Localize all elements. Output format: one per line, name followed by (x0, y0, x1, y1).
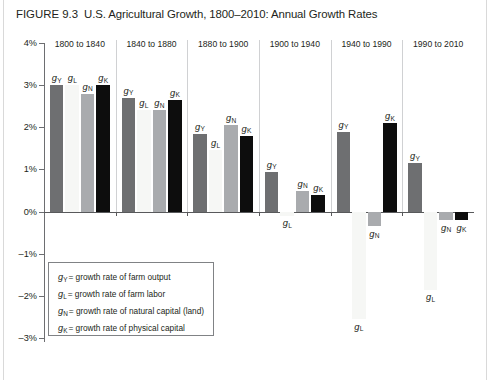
group-separator (116, 40, 117, 214)
bar-label-gN-group-4: gN (298, 179, 308, 189)
bar-gN-group-1 (81, 94, 95, 212)
figure-title: FIGURE 9.3U.S. Agricultural Growth, 1800… (16, 8, 476, 20)
bar-label-gY-group-4: gY (267, 160, 277, 170)
legend-item-n: gN= growth rate of natural capital (land… (58, 303, 205, 320)
bar-label-gK-group-5: gK (385, 111, 395, 121)
bar-gL-group-5 (352, 212, 366, 319)
bar-gK-group-3 (240, 136, 254, 212)
figure-container: FIGURE 9.3U.S. Agricultural Growth, 1800… (0, 0, 490, 380)
legend-text-l: = growth rate of farm labor (68, 289, 166, 299)
y-axis-tick-label: 4% (24, 38, 37, 48)
y-axis-tick-mark (39, 212, 44, 213)
figure-number: FIGURE 9.3 (16, 8, 78, 20)
group-separator (187, 40, 188, 214)
y-axis-tick-label: –3% (19, 333, 37, 343)
bar-gY-group-6 (408, 163, 422, 211)
bar-label-gK-group-3: gK (242, 124, 252, 134)
group-header-1: 1800 to 1840 (55, 39, 105, 49)
bar-gY-group-3 (193, 134, 207, 212)
bar-label-gN-group-2: gN (154, 98, 164, 108)
zero-line-tick (402, 212, 403, 216)
bar-gN-group-4 (296, 191, 310, 212)
legend-text-k: = growth rate of physical capital (68, 323, 184, 333)
group-separator (402, 40, 403, 214)
bar-label-gN-group-6: gN (441, 223, 451, 233)
bar-label-gK-group-6: gK (457, 223, 467, 233)
bar-label-gY-group-2: gY (123, 86, 133, 96)
y-axis-tick-mark (39, 169, 44, 170)
y-axis-line (44, 43, 45, 342)
zero-line-tick (259, 212, 260, 216)
legend-item-l: gL= growth rate of farm labor (58, 286, 205, 303)
group-header-2: 1840 to 1880 (126, 39, 176, 49)
zero-line-tick (331, 212, 332, 216)
bar-gL-group-2 (137, 110, 151, 211)
bar-label-gN-group-5: gN (369, 229, 379, 239)
y-axis-tick-label: 2% (24, 122, 37, 132)
zero-line-tick (116, 212, 117, 216)
group-header-4: 1900 to 1940 (270, 39, 320, 49)
legend-symbol-l: gL (58, 289, 67, 299)
legend-text-n: = growth rate of natural capital (land) (69, 306, 204, 316)
zero-line-tick (187, 212, 188, 216)
y-axis-tick-label: 0% (24, 207, 37, 217)
legend-symbol-n: gN (58, 306, 68, 316)
bar-label-gY-group-1: gY (52, 73, 62, 83)
bar-gL-group-6 (424, 212, 438, 290)
legend-symbol-k: gK (58, 323, 67, 333)
y-axis-tick-label: –1% (19, 249, 37, 259)
y-axis-tick-mark (39, 127, 44, 128)
bar-gK-group-5 (383, 123, 397, 212)
y-axis-tick-mark (39, 296, 44, 297)
bar-gY-group-4 (265, 172, 279, 212)
legend-symbol-y: gY (58, 272, 67, 282)
y-axis-tick-mark (39, 43, 44, 44)
bar-label-gL-group-5: gL (354, 322, 363, 332)
y-axis-tick-label: 1% (24, 164, 37, 174)
bar-label-gL-group-6: gL (426, 292, 435, 302)
group-separator (331, 40, 332, 214)
page-rule-right (486, 0, 487, 380)
bar-gY-group-1 (50, 85, 64, 211)
bar-gN-group-5 (368, 212, 382, 227)
legend-text-y: = growth rate of farm output (68, 272, 170, 282)
bar-label-gN-group-1: gN (83, 82, 93, 92)
bar-label-gK-group-4: gK (313, 183, 323, 193)
legend-item-y: gY= growth rate of farm output (58, 269, 205, 286)
bar-label-gN-group-3: gN (226, 113, 236, 123)
bar-label-gL-group-2: gL (139, 98, 148, 108)
bar-gY-group-5 (337, 132, 351, 212)
legend-box: gY= growth rate of farm outputgL= growth… (48, 262, 214, 336)
bar-gN-group-6 (439, 212, 453, 220)
bar-label-gK-group-2: gK (170, 88, 180, 98)
bar-gN-group-2 (153, 110, 167, 211)
y-axis-tick-label: –2% (19, 291, 37, 301)
y-axis-tick-mark (39, 254, 44, 255)
bar-gL-group-4 (280, 212, 294, 216)
y-axis-tick-mark (39, 85, 44, 86)
bar-gK-group-4 (311, 195, 325, 212)
bar-gK-group-2 (168, 100, 182, 212)
bar-gY-group-2 (122, 98, 136, 212)
bar-gK-group-6 (455, 212, 469, 220)
bar-gK-group-1 (96, 85, 110, 211)
group-header-6: 1990 to 2010 (413, 39, 463, 49)
y-axis-tick-label: 3% (24, 80, 37, 90)
bar-label-gL-group-4: gL (283, 218, 292, 228)
bar-label-gY-group-5: gY (338, 120, 348, 130)
bar-label-gY-group-3: gY (195, 122, 205, 132)
legend-item-k: gK= growth rate of physical capital (58, 320, 205, 337)
y-axis-tick-mark (39, 338, 44, 339)
bar-gL-group-1 (65, 85, 79, 211)
bar-gL-group-3 (209, 150, 223, 211)
page-rule-left (3, 0, 4, 380)
group-header-3: 1880 to 1900 (198, 39, 248, 49)
group-header-5: 1940 to 1990 (341, 39, 391, 49)
bar-gN-group-3 (224, 125, 238, 211)
group-separator (259, 40, 260, 214)
figure-title-text: U.S. Agricultural Growth, 1800–2010: Ann… (84, 8, 377, 20)
bar-label-gK-group-1: gK (98, 73, 108, 83)
bar-label-gL-group-3: gL (211, 138, 220, 148)
bar-label-gY-group-6: gY (410, 151, 420, 161)
bar-label-gL-group-1: gL (68, 73, 77, 83)
